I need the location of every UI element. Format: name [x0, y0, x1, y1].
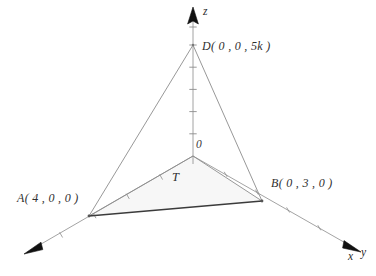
vertex-point-b — [261, 200, 264, 203]
arrowhead-x-icon — [24, 242, 43, 254]
base-triangle-shading — [89, 156, 262, 216]
vertex-label-d: D( 0 , 0 , 5k ) — [202, 40, 270, 52]
vertex-point-a — [88, 215, 91, 218]
region-label-t: T — [172, 171, 179, 184]
y-axis-label: y — [361, 247, 366, 259]
vertex-label-a: A( 4 , 0 , 0 ) — [17, 192, 79, 204]
coordinate-diagram-svg — [0, 0, 376, 276]
figure-container: x y z 0 D( 0 , 0 , 5k ) A( 4 , 0 , 0 ) B… — [0, 0, 376, 276]
origin-label: 0 — [196, 139, 202, 151]
z-axis-label: z — [203, 6, 207, 18]
x-axis-label: x — [348, 251, 353, 263]
vertex-label-b: B( 0 , 3 , 0 ) — [271, 177, 333, 189]
vertex-point-d — [192, 44, 194, 46]
